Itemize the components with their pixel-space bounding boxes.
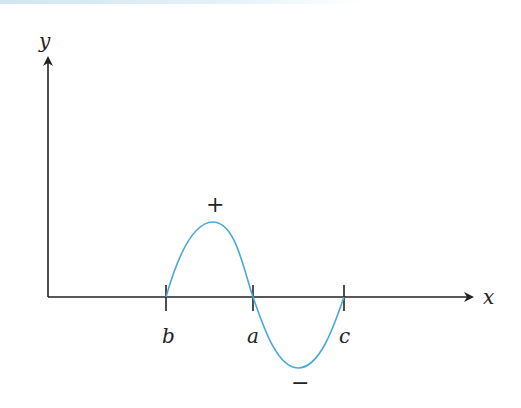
tick-label-c: c — [339, 324, 350, 348]
negative-sign: − — [291, 370, 309, 395]
y-axis-label: y — [38, 29, 51, 53]
positive-sign: + — [206, 192, 224, 217]
tick-label-a: a — [247, 324, 259, 348]
sign-diagram: y x b a c + − — [0, 0, 521, 408]
x-axis-label: x — [483, 285, 494, 309]
tick-label-b: b — [162, 324, 175, 348]
